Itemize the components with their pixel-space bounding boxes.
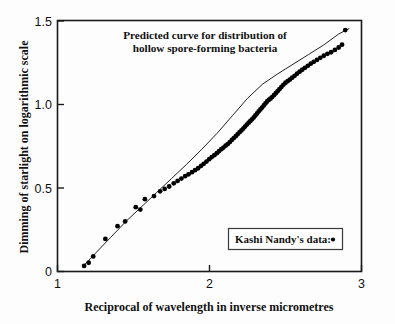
legend-label: Kashi Nandy's data: [235, 233, 331, 245]
legend: Kashi Nandy's data: [229, 229, 343, 250]
data-point [133, 205, 138, 210]
data-point [167, 184, 172, 189]
data-point [91, 254, 96, 259]
data-point [82, 264, 87, 269]
data-point [343, 28, 348, 33]
legend-dot-marker [331, 237, 335, 241]
y-axis-title: Dimming of starlight on logarithmic scal… [17, 40, 31, 254]
x-axis-title: Reciprocal of wavelength in inverse micr… [85, 300, 334, 314]
x-tick-label-3: 3 [358, 277, 365, 291]
y-tick-label-0: 0 [45, 265, 52, 279]
chart-title-line-1: Predicted curve for distribution of [123, 29, 287, 41]
data-point [152, 194, 157, 199]
x-tick-label-1: 1 [54, 277, 61, 291]
y-tick-label-0_5: 0.5 [35, 182, 52, 196]
data-point [115, 224, 120, 229]
x-axis-ticks [58, 265, 362, 272]
data-point [123, 219, 128, 224]
chart-figure: 1.5 1.0 0.5 0 1 2 3 Predicted curve for … [0, 0, 395, 324]
data-point [158, 189, 163, 194]
y-tick-label-1_0: 1.0 [35, 98, 52, 112]
data-point [143, 197, 148, 202]
scatter-plot: 1.5 1.0 0.5 0 1 2 3 Predicted curve for … [0, 0, 395, 324]
chart-title-line-2: hollow spore-forming bacteria [133, 42, 278, 54]
data-point [340, 42, 345, 47]
data-point [103, 237, 108, 242]
data-point [138, 207, 143, 212]
data-point [86, 260, 91, 265]
y-axis-ticks [58, 21, 65, 272]
x-tick-label-2: 2 [206, 277, 213, 291]
data-point [162, 186, 167, 191]
y-tick-label-1_5: 1.5 [35, 15, 52, 29]
